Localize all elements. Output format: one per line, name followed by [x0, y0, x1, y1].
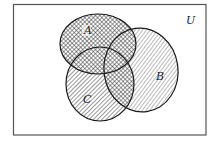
venn-diagram: A B C U: [0, 0, 215, 142]
set-c-label: C: [83, 93, 92, 106]
universe-label: U: [186, 14, 196, 27]
set-b-label: B: [155, 70, 164, 83]
set-a-label: A: [83, 24, 92, 37]
